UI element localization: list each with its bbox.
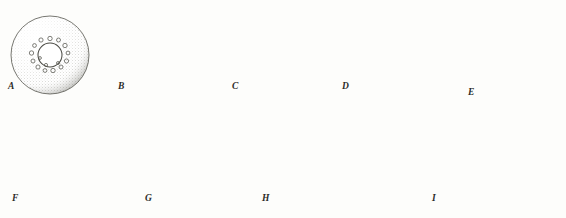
panel-label-f: F [12,194,19,204]
illustration-canvas [0,0,566,218]
panel-label-h: H [262,194,270,204]
figure-plate: A B C D E F G H I [0,0,566,218]
panel-label-d: D [342,82,349,92]
panel-label-b: B [118,82,125,92]
panel-A-illustration [11,16,89,94]
panel-label-c: C [232,82,239,92]
panel-label-e: E [468,88,475,98]
panel-label-i: I [432,194,436,204]
panel-label-g: G [145,194,152,204]
panel-label-a: A [8,82,15,92]
